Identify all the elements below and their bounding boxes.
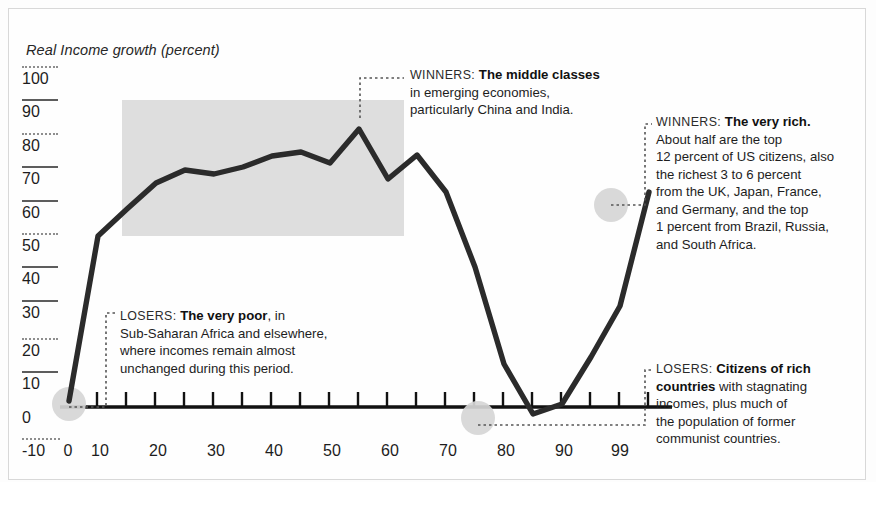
y-gridline-30 — [22, 300, 58, 302]
y-gridline-20 — [22, 338, 58, 340]
annotation-very-rich-line-1: WINNERS: The very rich. — [656, 113, 874, 131]
x-tick-label-80: 80 — [490, 442, 522, 460]
y-gridline-90 — [22, 99, 58, 101]
y-gridline-60 — [22, 200, 58, 202]
annotation-rich-countries-lead-a: Citizens of rich — [716, 361, 811, 376]
x-tick-label-40: 40 — [258, 442, 290, 460]
y-gridline-100 — [22, 66, 58, 68]
annotation-very-rich: WINNERS: The very rich. About half are t… — [656, 113, 874, 253]
annotation-very-poor-line-4: unchanged during this period. — [120, 360, 370, 378]
annotation-very-rich-line-2: About half are the top — [656, 131, 874, 149]
y-tick-label-10: 10 — [22, 375, 40, 393]
y-tick-label-60: 60 — [22, 204, 40, 222]
annotation-very-poor: LOSERS: The very poor, in Sub-Saharan Af… — [120, 307, 370, 377]
annotation-very-rich-line-3: 12 percent of US citizens, also — [656, 148, 874, 166]
x-tick-label-10: 10 — [84, 442, 116, 460]
annotation-very-rich-line-6: and Germany, and the top — [656, 201, 874, 219]
y-gridline-70 — [22, 166, 58, 168]
y-tick-label-50: 50 — [22, 237, 40, 255]
x-tick-label-90: 90 — [548, 442, 580, 460]
annotation-middle-classes-line-3: particularly China and India. — [410, 101, 640, 119]
annotation-middle-classes: WINNERS: The middle classes in emerging … — [410, 66, 640, 119]
y-gridline-40 — [22, 266, 58, 268]
annotation-middle-classes-line-1: WINNERS: The middle classes — [410, 66, 640, 84]
annotation-very-rich-lead: The very rich. — [725, 114, 811, 129]
y-axis-title: Real Income growth (percent) — [26, 42, 220, 58]
annotation-rich-countries-line-3: incomes, plus much of — [656, 395, 866, 413]
annotation-rich-countries-line-2: countries with stagnating — [656, 378, 866, 396]
y-gridline-minus10 — [22, 438, 60, 440]
annotation-very-rich-line-5: from the UK, Japan, France, — [656, 183, 874, 201]
y-tick-label-20: 20 — [22, 342, 40, 360]
annotation-rich-countries-line-1: LOSERS: Citizens of rich — [656, 360, 866, 378]
annotation-rich-countries-lead-b: countries — [656, 379, 715, 394]
y-tick-label-70: 70 — [22, 170, 40, 188]
annotation-middle-classes-lead: The middle classes — [479, 67, 600, 82]
y-gridline-10 — [22, 371, 58, 373]
x-tick-label-30: 30 — [200, 442, 232, 460]
figure-caption-area — [0, 482, 876, 524]
annotation-very-rich-line-8: and South Africa. — [656, 236, 874, 254]
annotation-very-poor-lead: The very poor — [180, 308, 267, 323]
x-tick-label-0: 0 — [54, 442, 82, 460]
annotation-rich-countries-tail: with stagnating — [715, 379, 807, 394]
annotation-rich-countries: LOSERS: Citizens of rich countries with … — [656, 360, 866, 448]
y-gridline-50 — [22, 233, 58, 235]
y-tick-label-80: 80 — [22, 137, 40, 155]
annotation-very-poor-kicker: LOSERS: — [120, 309, 177, 323]
y-tick-label-100: 100 — [22, 70, 49, 88]
annotation-very-rich-kicker: WINNERS: — [656, 115, 721, 129]
annotation-very-poor-tail: , in — [267, 308, 285, 323]
y-tick-label-minus10: -10 — [22, 442, 45, 460]
annotation-very-poor-line-2: Sub-Saharan Africa and elsewhere, — [120, 325, 370, 343]
y-tick-label-40: 40 — [22, 270, 40, 288]
x-tick-label-99: 99 — [604, 442, 636, 460]
annotation-middle-classes-line-2: in emerging economies, — [410, 84, 640, 102]
chart-figure: Real Income growth (percent) 100 90 80 7… — [0, 0, 876, 524]
y-tick-label-30: 30 — [22, 304, 40, 322]
annotation-rich-countries-kicker: LOSERS: — [656, 362, 713, 376]
y-tick-label-90: 90 — [22, 103, 40, 121]
annotation-rich-countries-line-4: the population of former — [656, 413, 866, 431]
annotation-middle-classes-kicker: WINNERS: — [410, 68, 475, 82]
y-gridline-80 — [22, 133, 58, 135]
annotation-very-poor-line-3: where incomes remain almost — [120, 342, 370, 360]
x-tick-label-70: 70 — [432, 442, 464, 460]
x-tick-label-50: 50 — [316, 442, 348, 460]
annotation-rich-countries-line-5: communist countries. — [656, 430, 866, 448]
annotation-very-rich-line-4: the richest 3 to 6 percent — [656, 166, 874, 184]
x-tick-label-60: 60 — [374, 442, 406, 460]
y-tick-label-0: 0 — [22, 409, 31, 427]
annotation-very-rich-line-7: 1 percent from Brazil, Russia, — [656, 218, 874, 236]
x-tick-label-20: 20 — [142, 442, 174, 460]
annotation-very-poor-line-1: LOSERS: The very poor, in — [120, 307, 370, 325]
